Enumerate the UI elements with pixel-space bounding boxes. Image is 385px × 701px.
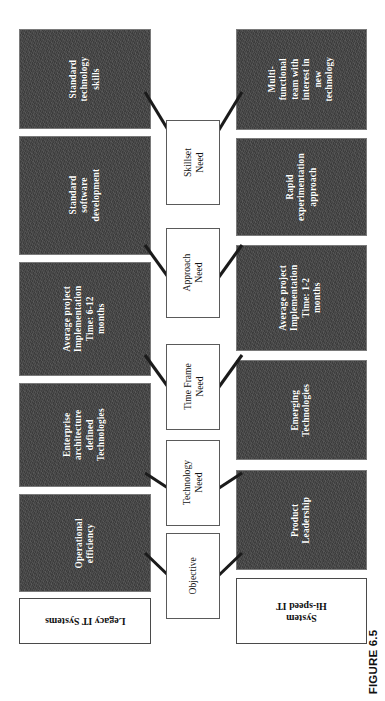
legacy-skillset-box: Standard technology skills bbox=[19, 29, 151, 129]
criteria-technology-text: Technology Need bbox=[181, 460, 204, 505]
hispeed-approach-box: Rapid experimentation approach bbox=[236, 138, 367, 236]
hispeed-category-label-box: System Hi-speed IT bbox=[236, 578, 367, 644]
figure-caption-text: FIGURE 6.5 bbox=[367, 630, 379, 695]
legacy-skillset-text: Standard technology skills bbox=[68, 57, 102, 102]
legacy-timeframe-text: Average project Implementation Time: 6-1… bbox=[62, 286, 108, 352]
legacy-timeframe-box: Average project Implementation Time: 6-1… bbox=[19, 262, 151, 376]
hispeed-category-label: System Hi-speed IT bbox=[276, 599, 327, 624]
hispeed-technology-text: Emerging Technologies bbox=[290, 383, 313, 436]
criteria-column: Skillset Need Approach Need Time Frame N… bbox=[166, 0, 220, 701]
hispeed-skillset-box: Multi- functional team with interest in … bbox=[236, 29, 367, 130]
legacy-category-label-box: Legacy IT Systems bbox=[19, 598, 151, 644]
legacy-approach-text: Standard software development bbox=[68, 169, 102, 222]
criteria-objective-box: Objective bbox=[166, 533, 220, 619]
criteria-approach-text: Approach Need bbox=[181, 254, 204, 292]
hispeed-skillset-text: Multi- functional team with interest in … bbox=[267, 57, 335, 102]
hispeed-objective-text: Product Leadership bbox=[290, 497, 313, 544]
criteria-timeframe-text: Time Frame Need bbox=[181, 364, 204, 411]
legacy-category-label: Legacy IT Systems bbox=[45, 615, 125, 627]
hispeed-timeframe-text: Average project Implementation Time: 1-2… bbox=[279, 265, 325, 331]
hispeed-objective-box: Product Leadership bbox=[236, 470, 367, 570]
criteria-approach-box: Approach Need bbox=[166, 228, 220, 318]
hispeed-column: Multi- functional team with interest in … bbox=[236, 0, 367, 701]
criteria-skillset-text: Skillset Need bbox=[181, 148, 204, 177]
figure-caption: FIGURE 6.5 bbox=[362, 625, 384, 699]
criteria-timeframe-box: Time Frame Need bbox=[166, 344, 220, 430]
legacy-technology-text: Enterprise architecture defined Technolo… bbox=[62, 408, 108, 461]
legacy-objective-text: Operational efficiency bbox=[74, 518, 97, 568]
criteria-technology-box: Technology Need bbox=[166, 440, 220, 526]
criteria-objective-text: Objective bbox=[187, 557, 199, 594]
legacy-objective-box: Operational efficiency bbox=[19, 494, 151, 592]
hispeed-timeframe-box: Average project Implementation Time: 1-2… bbox=[236, 245, 367, 351]
legacy-technology-box: Enterprise architecture defined Technolo… bbox=[19, 383, 151, 487]
hispeed-approach-text: Rapid experimentation approach bbox=[284, 153, 318, 221]
criteria-skillset-box: Skillset Need bbox=[166, 120, 220, 205]
hispeed-technology-box: Emerging Technologies bbox=[236, 360, 367, 460]
legacy-column: Standard technology skills Standard soft… bbox=[19, 0, 151, 701]
figure-canvas: Standard technology skills Standard soft… bbox=[0, 0, 385, 701]
legacy-approach-box: Standard software development bbox=[19, 136, 151, 255]
